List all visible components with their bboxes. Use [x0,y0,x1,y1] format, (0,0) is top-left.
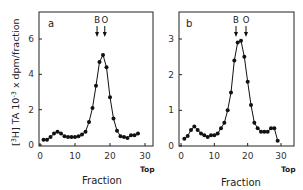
data-point [189,128,193,132]
data-point [70,135,74,139]
panel-a-data-line [44,55,139,140]
data-point [87,120,91,124]
x-tick-label: 20 [242,151,254,161]
panel-a: a 0246 0102030 BO Top Fraction [28,12,155,186]
data-point [219,126,223,130]
panel-b-x-axis-title: Fraction [221,177,261,188]
data-point [232,58,236,62]
data-point [98,60,102,64]
marker-label-b: B [233,15,239,25]
data-point [80,132,84,136]
arrow-head-icon [103,32,107,37]
data-point [266,130,270,134]
x-tick-label: 0 [178,151,184,161]
y-tick-label: 6 [28,34,34,44]
data-point [56,130,60,134]
y-tick-label: 4 [28,69,34,79]
y-tick-label: 3 [168,34,174,44]
data-point [222,121,226,125]
marker-label-o: O [243,15,250,25]
data-point [42,138,46,142]
y-tick-label: 0 [168,141,174,151]
panel-a-y-ticks: 0246 [28,34,42,150]
y-tick-label: 1 [168,105,174,115]
arrow-head-icon [234,32,238,37]
data-point [192,124,196,128]
data-point [112,117,116,121]
data-point [246,80,250,84]
x-tick-label: 10 [209,151,221,161]
data-point [84,130,88,134]
marker-label-b: B [94,15,100,25]
x-tick-label: 30 [139,151,151,161]
panel-b-markers: BO [233,15,250,37]
x-tick-label: 0 [37,151,43,161]
data-point [216,132,220,136]
data-point [45,138,49,142]
data-point [66,135,70,139]
y-tick-label: 0 [28,140,34,150]
data-point [182,137,186,141]
data-point [186,134,190,138]
panel-a-top-label: Top [140,165,155,174]
y-tick-label: 2 [28,105,34,115]
y-tick-label: 2 [168,70,174,80]
data-point [52,132,56,136]
data-point [249,103,253,107]
data-point [108,95,112,99]
data-point [59,132,63,136]
data-point [73,135,77,139]
data-point [256,126,260,130]
x-tick-label: 10 [69,151,81,161]
data-point [133,133,137,137]
data-point [242,55,246,59]
panel-b: b 0123 0102030 BO Top Fraction [168,12,296,188]
data-point [49,135,53,139]
panel-a-letter: a [48,18,54,29]
panel-a-markers: BO [94,15,108,37]
x-tick-label: 30 [275,151,287,161]
data-point [196,128,200,132]
y-axis-title: [3H] TA 10-3 x dpm/fraction [10,18,21,146]
data-point [122,135,126,139]
figure: [3H] TA 10-3 x dpm/fraction a 0246 01020… [0,0,303,190]
data-point [94,84,98,88]
data-point [77,134,81,138]
data-point [276,139,280,143]
data-point [119,134,123,138]
data-point [105,65,109,69]
data-point [226,108,230,112]
data-point [252,121,256,125]
panel-b-data-points [182,39,279,143]
arrow-head-icon [244,32,248,37]
panel-a-data-points [42,53,141,142]
data-point [229,91,233,95]
data-point [272,126,276,130]
panel-a-x-axis-title: Fraction [82,175,122,186]
x-tick-label: 20 [104,151,116,161]
data-point [63,134,67,138]
marker-label-o: O [101,15,108,25]
panel-b-y-ticks: 0123 [168,34,182,151]
data-point [91,106,95,110]
data-point [101,53,105,57]
data-point [115,129,119,133]
data-point [126,136,130,140]
panel-b-top-label: Top [281,165,296,174]
arrow-head-icon [95,32,99,37]
panel-b-letter: b [186,18,192,29]
data-point [239,39,243,43]
data-point [129,133,133,137]
data-point [136,132,140,136]
